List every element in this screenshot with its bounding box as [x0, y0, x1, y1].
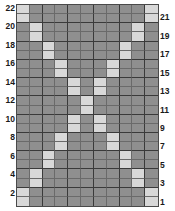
- chart-cell[interactable]: [94, 23, 107, 32]
- chart-cell[interactable]: [30, 124, 43, 133]
- chart-cell[interactable]: [145, 151, 158, 160]
- chart-cell[interactable]: [94, 69, 107, 78]
- chart-cell[interactable]: [145, 32, 158, 41]
- chart-cell[interactable]: [120, 133, 133, 142]
- chart-cell[interactable]: [120, 14, 133, 23]
- chart-cell[interactable]: [81, 69, 94, 78]
- chart-cell[interactable]: [68, 14, 81, 23]
- chart-cell[interactable]: [55, 179, 68, 188]
- chart-cell[interactable]: [17, 115, 30, 124]
- chart-cell[interactable]: [145, 106, 158, 115]
- chart-cell[interactable]: [81, 106, 94, 115]
- chart-cell[interactable]: [120, 179, 133, 188]
- chart-cell[interactable]: [30, 5, 43, 14]
- chart-cell[interactable]: [30, 151, 43, 160]
- chart-cell[interactable]: [94, 32, 107, 41]
- chart-cell[interactable]: [132, 142, 145, 151]
- chart-cell[interactable]: [68, 78, 81, 87]
- chart-cell[interactable]: [107, 51, 120, 60]
- chart-cell[interactable]: [145, 179, 158, 188]
- chart-cell[interactable]: [120, 32, 133, 41]
- chart-cell[interactable]: [145, 115, 158, 124]
- chart-cell[interactable]: [43, 142, 56, 151]
- chart-cell[interactable]: [120, 96, 133, 105]
- chart-cell[interactable]: [94, 179, 107, 188]
- chart-cell[interactable]: [107, 179, 120, 188]
- chart-cell[interactable]: [17, 96, 30, 105]
- chart-cell[interactable]: [94, 106, 107, 115]
- chart-cell[interactable]: [30, 133, 43, 142]
- chart-cell[interactable]: [68, 151, 81, 160]
- chart-cell[interactable]: [17, 5, 30, 14]
- chart-cell[interactable]: [107, 169, 120, 178]
- chart-cell[interactable]: [94, 133, 107, 142]
- chart-cell[interactable]: [68, 87, 81, 96]
- chart-cell[interactable]: [94, 51, 107, 60]
- chart-cell[interactable]: [55, 87, 68, 96]
- chart-cell[interactable]: [94, 124, 107, 133]
- chart-cell[interactable]: [81, 142, 94, 151]
- chart-cell[interactable]: [120, 115, 133, 124]
- chart-cell[interactable]: [94, 115, 107, 124]
- chart-cell[interactable]: [145, 169, 158, 178]
- chart-cell[interactable]: [55, 188, 68, 197]
- chart-cell[interactable]: [120, 142, 133, 151]
- chart-cell[interactable]: [17, 60, 30, 69]
- chart-cell[interactable]: [68, 106, 81, 115]
- chart-cell[interactable]: [132, 160, 145, 169]
- chart-cell[interactable]: [30, 106, 43, 115]
- chart-cell[interactable]: [43, 160, 56, 169]
- chart-cell[interactable]: [132, 179, 145, 188]
- chart-cell[interactable]: [120, 160, 133, 169]
- chart-cell[interactable]: [68, 69, 81, 78]
- chart-cell[interactable]: [145, 60, 158, 69]
- chart-cell[interactable]: [132, 42, 145, 51]
- chart-cell[interactable]: [17, 23, 30, 32]
- chart-cell[interactable]: [132, 106, 145, 115]
- chart-cell[interactable]: [107, 78, 120, 87]
- chart-cell[interactable]: [30, 96, 43, 105]
- chart-cell[interactable]: [68, 169, 81, 178]
- chart-cell[interactable]: [81, 60, 94, 69]
- chart-cell[interactable]: [145, 23, 158, 32]
- chart-cell[interactable]: [30, 87, 43, 96]
- chart-cell[interactable]: [81, 169, 94, 178]
- chart-cell[interactable]: [55, 124, 68, 133]
- chart-cell[interactable]: [17, 87, 30, 96]
- chart-cell[interactable]: [120, 151, 133, 160]
- chart-cell[interactable]: [132, 96, 145, 105]
- chart-cell[interactable]: [94, 87, 107, 96]
- chart-cell[interactable]: [94, 160, 107, 169]
- chart-cell[interactable]: [30, 160, 43, 169]
- chart-cell[interactable]: [43, 5, 56, 14]
- chart-cell[interactable]: [43, 197, 56, 206]
- chart-cell[interactable]: [55, 32, 68, 41]
- chart-cell[interactable]: [43, 133, 56, 142]
- chart-cell[interactable]: [43, 179, 56, 188]
- chart-cell[interactable]: [81, 78, 94, 87]
- chart-cell[interactable]: [107, 69, 120, 78]
- chart-cell[interactable]: [120, 197, 133, 206]
- chart-cell[interactable]: [94, 197, 107, 206]
- chart-cell[interactable]: [30, 142, 43, 151]
- chart-cell[interactable]: [43, 69, 56, 78]
- chart-cell[interactable]: [68, 133, 81, 142]
- chart-cell[interactable]: [17, 106, 30, 115]
- chart-cell[interactable]: [107, 60, 120, 69]
- chart-cell[interactable]: [120, 106, 133, 115]
- chart-cell[interactable]: [145, 188, 158, 197]
- chart-cell[interactable]: [81, 124, 94, 133]
- chart-cell[interactable]: [81, 23, 94, 32]
- chart-cell[interactable]: [55, 169, 68, 178]
- chart-cell[interactable]: [107, 124, 120, 133]
- chart-cell[interactable]: [132, 60, 145, 69]
- chart-cell[interactable]: [30, 14, 43, 23]
- chart-cell[interactable]: [43, 42, 56, 51]
- chart-cell[interactable]: [107, 23, 120, 32]
- chart-cell[interactable]: [120, 23, 133, 32]
- chart-cell[interactable]: [120, 188, 133, 197]
- chart-cell[interactable]: [30, 188, 43, 197]
- chart-cell[interactable]: [43, 151, 56, 160]
- chart-cell[interactable]: [81, 197, 94, 206]
- chart-cell[interactable]: [68, 42, 81, 51]
